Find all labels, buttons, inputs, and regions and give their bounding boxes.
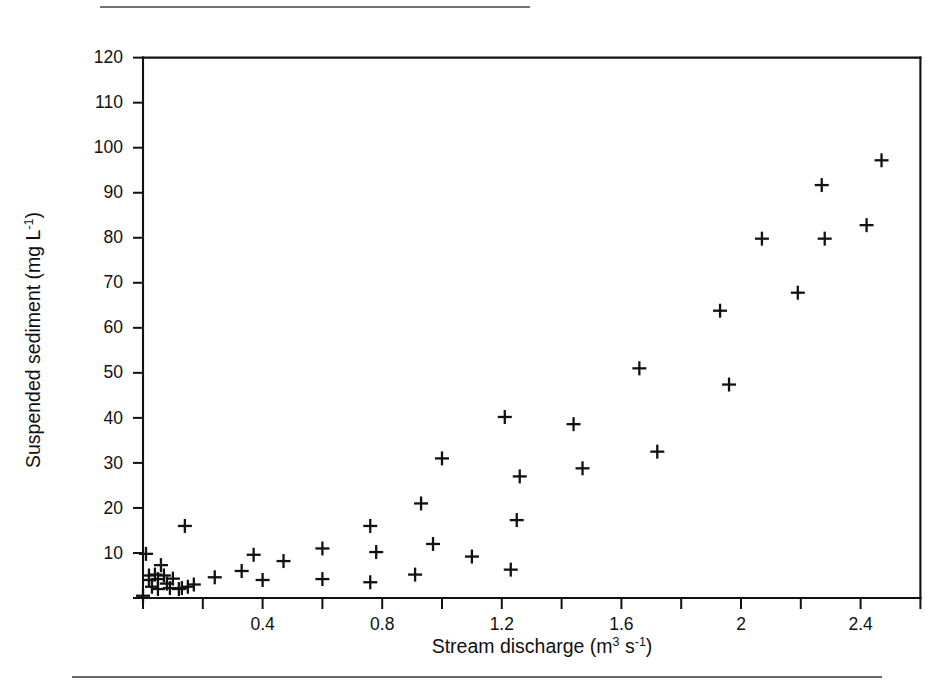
y-axis-ticks [133, 58, 143, 598]
y-tick-label: 40 [104, 408, 124, 428]
y-tick-label: 100 [94, 137, 123, 157]
data-point [632, 361, 646, 375]
x-tick-label: 2 [736, 614, 746, 634]
x-axis-title: Stream discharge (m3 s-1) [432, 635, 653, 657]
data-point [208, 570, 222, 584]
data-point [510, 513, 524, 527]
data-point [235, 564, 249, 578]
y-tick-label: 80 [104, 227, 124, 247]
y-tick-label: 10 [104, 543, 124, 563]
data-point [504, 563, 518, 577]
y-tick-label: 60 [104, 317, 124, 337]
data-point [860, 218, 874, 232]
data-point [247, 548, 261, 562]
data-point [791, 286, 805, 300]
y-axis-tick-labels: 102030405060708090100110120 [94, 47, 123, 562]
data-point [369, 545, 383, 559]
y-tick-label: 110 [95, 92, 123, 112]
y-tick-label: 120 [94, 47, 123, 67]
x-tick-label: 0.8 [370, 614, 394, 634]
x-axis-tick-labels: 0.40.81.21.622.4 [250, 614, 873, 634]
data-point [363, 519, 377, 533]
data-point [139, 547, 153, 561]
data-point [818, 232, 832, 246]
data-point [755, 232, 769, 246]
x-tick-label: 1.2 [490, 614, 514, 634]
y-tick-label: 20 [104, 498, 124, 518]
plot-frame [135, 58, 920, 598]
y-tick-label: 50 [104, 362, 124, 382]
data-point [513, 469, 527, 483]
data-point [178, 519, 192, 533]
data-point [426, 537, 440, 551]
data-point [414, 496, 428, 510]
x-tick-label: 0.4 [250, 614, 275, 634]
data-point [875, 153, 889, 167]
scatter-plot: 102030405060708090100110120 0.40.81.21.6… [0, 0, 948, 693]
data-point [498, 410, 512, 424]
y-tick-label: 90 [104, 182, 124, 202]
data-point [722, 378, 736, 392]
data-point [363, 575, 377, 589]
data-point [277, 554, 291, 568]
x-tick-label: 1.6 [609, 614, 633, 634]
data-point [315, 541, 329, 555]
data-point [576, 461, 590, 475]
y-axis-title: Suspended sediment (mg L-1) [22, 212, 44, 468]
data-point [567, 417, 581, 431]
data-point [465, 550, 479, 564]
y-tick-label: 30 [104, 453, 124, 473]
data-point [136, 589, 150, 603]
data-point [713, 304, 727, 318]
x-tick-label: 2.4 [848, 614, 873, 634]
data-point [650, 445, 664, 459]
figure-container: 102030405060708090100110120 0.40.81.21.6… [0, 0, 948, 693]
data-point [435, 451, 449, 465]
data-point [408, 568, 422, 582]
x-axis-ticks [143, 598, 920, 609]
data-point [256, 573, 270, 587]
data-point [815, 178, 829, 192]
data-point [315, 572, 329, 586]
y-tick-label: 70 [104, 272, 124, 292]
data-point-markers [136, 153, 889, 602]
